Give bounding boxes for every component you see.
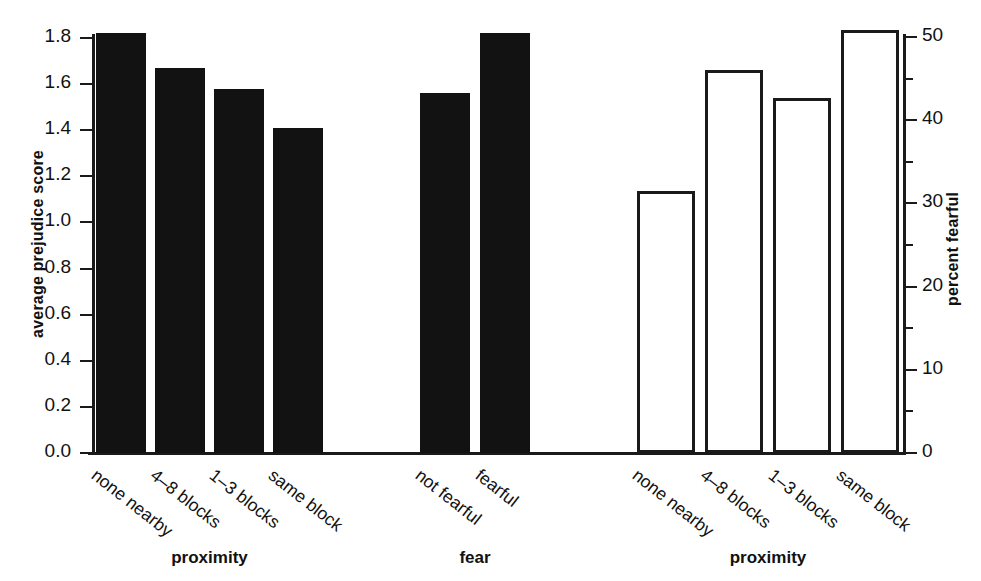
- bar: [841, 30, 899, 453]
- right-axis-tick-label: 30: [922, 190, 943, 212]
- right-axis-minor-tick: [904, 161, 913, 163]
- left-axis-tick-label: 0.6: [45, 302, 71, 324]
- right-axis-tick-label: 50: [922, 24, 943, 46]
- left-axis-tick-label: 0.0: [45, 440, 71, 462]
- right-axis-minor-tick: [904, 78, 913, 80]
- category-tick-label: not fearful: [411, 465, 485, 529]
- left-axis-tick-label: 0.2: [45, 394, 71, 416]
- right-axis-tick-label: 40: [922, 107, 943, 129]
- right-axis-title: percent fearful: [944, 129, 962, 369]
- right-axis-tick: [904, 119, 917, 121]
- bar: [155, 68, 205, 453]
- right-axis-tick-label: 20: [922, 274, 943, 296]
- left-axis-tick: [80, 360, 93, 362]
- right-axis-tick-label: 10: [922, 357, 943, 379]
- left-axis-tick: [80, 83, 93, 85]
- left-axis-tick-label: 1.6: [45, 71, 71, 93]
- bar: [480, 33, 530, 453]
- bar: [705, 70, 763, 453]
- left-axis-tick: [80, 268, 93, 270]
- group-axis-label: proximity: [100, 548, 320, 568]
- left-axis-tick: [80, 314, 93, 316]
- right-axis-minor-tick: [904, 244, 913, 246]
- bar: [637, 191, 695, 453]
- left-axis-tick-label: 1.4: [45, 117, 71, 139]
- left-axis-tick: [80, 37, 93, 39]
- right-axis-minor-tick: [904, 410, 913, 412]
- group-axis-label: proximity: [658, 548, 878, 568]
- right-axis-tick: [904, 369, 917, 371]
- left-axis-tick: [80, 406, 93, 408]
- bar: [273, 128, 323, 453]
- right-axis-tick: [904, 286, 917, 288]
- bar: [420, 93, 470, 453]
- left-axis-line: [92, 34, 95, 455]
- left-axis-tick-label: 1.0: [45, 209, 71, 231]
- chart-figure: average prejudice score percent fearful …: [0, 0, 981, 581]
- right-axis-tick-label: 0: [922, 440, 933, 462]
- category-tick-label: fearful: [471, 465, 522, 511]
- left-axis-tick-label: 1.8: [45, 25, 71, 47]
- left-axis-tick: [80, 175, 93, 177]
- left-axis-tick: [80, 129, 93, 131]
- left-axis-tick-label: 0.4: [45, 348, 71, 370]
- bar: [773, 98, 831, 453]
- left-axis-tick-label: 0.8: [45, 256, 71, 278]
- right-axis-tick: [904, 36, 917, 38]
- bar: [214, 89, 264, 453]
- right-axis-tick: [904, 452, 917, 454]
- category-tick-label: 1–3 blocks: [764, 465, 843, 533]
- left-axis-title: average prejudice score: [29, 114, 47, 374]
- left-axis-tick-label: 1.2: [45, 163, 71, 185]
- bar: [96, 33, 146, 453]
- group-axis-label: fear: [365, 548, 585, 568]
- right-axis-minor-tick: [904, 327, 913, 329]
- left-axis-tick: [80, 452, 93, 454]
- category-tick-label: same block: [832, 465, 915, 536]
- left-axis-tick: [80, 221, 93, 223]
- right-axis-tick: [904, 202, 917, 204]
